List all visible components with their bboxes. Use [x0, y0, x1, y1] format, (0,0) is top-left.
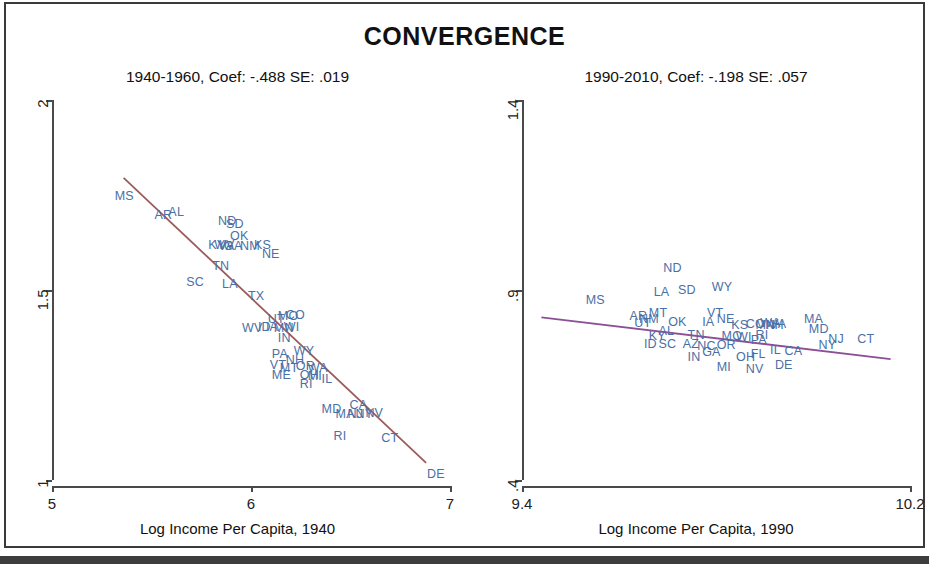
x-tick-label: 10.2 [880, 495, 929, 512]
y-tick-label: 1.4 [504, 100, 521, 124]
data-point-label: MS [115, 190, 134, 203]
data-point-label: NV [365, 407, 383, 420]
y-axis-line [522, 100, 524, 480]
data-point-label: GA [702, 346, 720, 359]
data-point-label: PA [751, 334, 767, 347]
data-point-label: MS [586, 294, 605, 307]
x-tick [450, 486, 452, 492]
data-point-label: ND [663, 262, 681, 275]
data-point-label: CA [785, 345, 803, 358]
x-tick [251, 486, 253, 492]
data-point-label: WI [736, 331, 752, 344]
data-point-label: CT [381, 432, 398, 445]
data-point-label: UT [634, 317, 651, 330]
y-tick-label: .9 [504, 290, 521, 314]
data-point-label: ID [644, 338, 657, 351]
regression-line [470, 60, 922, 540]
plot-area-right: .4.91.49.410.2Log Income Per Capita, 199… [470, 60, 922, 540]
x-tick-label: 9.4 [492, 495, 552, 512]
data-point-label: NE [262, 248, 280, 261]
y-tick-label: 1.5 [34, 290, 51, 314]
data-point-label: IL [770, 344, 781, 357]
data-point-label: NY [819, 339, 837, 352]
x-tick-label: 6 [221, 495, 281, 512]
x-axis-line [522, 486, 910, 488]
data-point-label: WY [712, 281, 733, 294]
figure-title: CONVERGENCE [0, 22, 929, 51]
data-point-label: AL [168, 206, 184, 219]
x-tick [52, 486, 54, 492]
data-point-label: SC [186, 276, 204, 289]
data-point-label: DE [427, 468, 445, 481]
data-point-label: MD [809, 323, 829, 336]
data-point-label: NV [746, 363, 764, 376]
data-point-label: TX [248, 290, 264, 303]
data-point-label: DE [775, 359, 793, 372]
x-axis-title: Log Income Per Capita, 1990 [470, 520, 922, 537]
panel-1940-1960: 1940-1960, Coef: -.488 SE: .019 11.52567… [10, 60, 465, 540]
data-point-label: LA [654, 286, 670, 299]
x-tick [910, 486, 912, 492]
plot-area-left: 11.52567Log Income Per Capita, 1940MSARA… [10, 60, 465, 540]
data-point-label: TN [212, 260, 229, 273]
panel-1990-2010: 1990-2010, Coef: -.198 SE: .057 .4.91.49… [470, 60, 922, 540]
x-tick [522, 486, 524, 492]
y-axis-line [52, 100, 54, 480]
data-point-label: ME [272, 369, 291, 382]
data-point-label: FL [751, 348, 766, 361]
data-point-label: SC [659, 338, 677, 351]
data-point-label: IN [688, 351, 701, 364]
data-point-label: CT [857, 333, 874, 346]
data-point-label: IA [702, 316, 714, 329]
data-point-label: RI [334, 430, 347, 443]
data-point-label: RI [300, 378, 313, 391]
regression-line [10, 60, 465, 540]
bottom-band [0, 556, 929, 564]
y-tick-label: 2 [34, 100, 51, 124]
data-point-label: MI [717, 361, 731, 374]
data-point-label: SD [678, 284, 696, 297]
x-tick-label: 5 [22, 495, 82, 512]
x-axis-title: Log Income Per Capita, 1940 [10, 520, 465, 537]
data-point-label: IL [322, 373, 333, 386]
data-point-label: LA [222, 278, 238, 291]
data-point-label: IN [278, 332, 291, 345]
